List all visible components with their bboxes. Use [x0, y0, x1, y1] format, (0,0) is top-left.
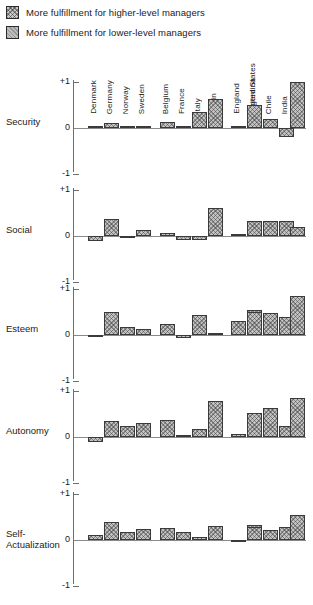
y-tick-mark [73, 483, 79, 484]
panel-label: Esteem [6, 323, 38, 334]
bar-japan [290, 296, 305, 335]
bar-germany [104, 123, 119, 128]
panel-social: Social+10-1 [0, 182, 313, 280]
bar-germany [104, 421, 119, 437]
y-tick-label: +1 [44, 488, 70, 498]
y-tick-mark [73, 586, 79, 587]
bar-sweden [136, 329, 151, 335]
bar-norway [120, 426, 135, 438]
y-tick-mark [73, 391, 79, 392]
bar-argentina [247, 527, 262, 540]
bar-belgium [160, 420, 175, 437]
bar-england [231, 434, 246, 437]
bar-chile [263, 221, 278, 236]
panel-selfactualization: Self- Actualization+10-1 [0, 486, 313, 584]
bar-italy [192, 537, 207, 540]
bar-argentina [247, 312, 262, 335]
y-tick-label: 0 [44, 230, 70, 240]
panel-autonomy: Autonomy+10-1 [0, 383, 313, 481]
hatched-swatch-higher-icon [6, 6, 19, 19]
bar-sweden [136, 423, 151, 437]
zero-baseline [74, 540, 306, 541]
bar-japan [290, 82, 305, 128]
y-tick-label: +1 [44, 76, 70, 86]
y-axis-line [73, 80, 74, 172]
bar-france [176, 335, 191, 338]
bar-england [231, 540, 246, 542]
y-tick-label: 0 [44, 534, 70, 544]
bar-norway [120, 532, 135, 540]
bar-norway [120, 236, 135, 238]
bar-argentina [247, 413, 262, 437]
bar-germany [104, 522, 119, 540]
bar-england [231, 126, 246, 128]
bar-germany [104, 312, 119, 335]
legend-item: More fulfillment for lower-level manager… [6, 24, 306, 41]
bar-denmark [88, 126, 103, 128]
y-tick-mark [73, 289, 79, 290]
y-tick-label: +1 [44, 184, 70, 194]
panel-security: Security+10-1 [0, 74, 313, 172]
bar-argentina [247, 221, 262, 236]
y-tick-label: 0 [44, 122, 70, 132]
bar-france [176, 236, 191, 240]
bar-japan [290, 515, 305, 540]
chart-legend: More fulfillment for higher-level manage… [6, 4, 306, 44]
bar-england [231, 234, 246, 236]
bar-sweden [136, 529, 151, 541]
y-axis-line [73, 492, 74, 584]
bar-belgium [160, 122, 175, 128]
hatched-swatch-lower-icon [6, 26, 19, 39]
bar-england [231, 321, 246, 335]
bar-sweden [136, 126, 151, 128]
bar-chile [263, 530, 278, 540]
panel-label: Social [6, 224, 32, 235]
bar-japan [290, 227, 305, 236]
bar-chile [263, 119, 278, 128]
bar-italy [192, 429, 207, 437]
bar-belgium [160, 324, 175, 336]
bar-italy [192, 236, 207, 240]
legend-item: More fulfillment for higher-level manage… [6, 4, 306, 21]
bar-spain [208, 99, 223, 128]
bar-italy [192, 315, 207, 335]
bar-india [279, 128, 294, 137]
bar-chile [263, 313, 278, 335]
bar-denmark [88, 335, 103, 337]
bar-norway [120, 327, 135, 335]
bar-sweden [136, 230, 151, 236]
y-tick-label: 0 [44, 431, 70, 441]
bar-belgium [160, 233, 175, 236]
bar-spain [208, 333, 223, 335]
y-tick-mark [73, 82, 79, 83]
bar-japan [290, 398, 305, 437]
legend-item-label: More fulfillment for higher-level manage… [26, 7, 205, 18]
y-tick-label: -1 [44, 580, 70, 590]
bar-denmark [88, 236, 103, 241]
y-tick-label: +1 [44, 385, 70, 395]
y-tick-label: +1 [44, 283, 70, 293]
y-tick-mark [73, 494, 79, 495]
legend-item-label: More fulfillment for lower-level manager… [26, 27, 201, 38]
bar-spain [208, 526, 223, 540]
bar-france [176, 435, 191, 437]
zero-baseline [74, 128, 306, 129]
bar-italy [192, 112, 207, 128]
bar-spain [208, 401, 223, 437]
bar-belgium [160, 528, 175, 540]
y-tick-mark [73, 190, 79, 191]
bar-spain [208, 208, 223, 236]
bar-france [176, 532, 191, 540]
panel-label: Autonomy [6, 425, 49, 436]
bar-germany [104, 219, 119, 236]
y-tick-label: 0 [44, 329, 70, 339]
y-tick-mark [73, 174, 79, 175]
y-axis-line [73, 287, 74, 379]
bar-argentina [247, 105, 262, 128]
y-tick-label: -1 [44, 168, 70, 178]
bar-denmark [88, 437, 103, 442]
y-axis-line [73, 188, 74, 280]
bar-chile [263, 408, 278, 437]
bar-denmark [88, 535, 103, 540]
y-axis-line [73, 389, 74, 481]
